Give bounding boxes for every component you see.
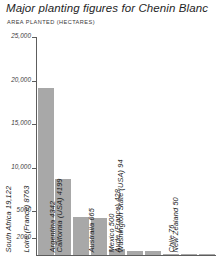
chart-title: Major planting figures for Chenin Blanc [6, 2, 208, 14]
bar[interactable] [145, 251, 161, 255]
y-axis-tick-mark [32, 37, 36, 38]
bar-slot: Chile 76 [180, 37, 198, 255]
chart-container: Major planting figures for Chenin Blanc … [0, 0, 222, 272]
bar-slot: Mexico 500 [127, 37, 145, 255]
x-axis-line [36, 255, 216, 256]
bar[interactable] [163, 254, 179, 255]
y-axis-tick-mark [32, 238, 36, 239]
bar-label: New Zealand 50 [172, 197, 179, 252]
chart-subtitle: AREA PLANTED (HECTARES) [7, 19, 95, 25]
bar-label: Washington State (USA) 94 [117, 159, 124, 252]
y-axis-tick-mark [32, 168, 36, 169]
y-axis-tick: 20,000 [0, 81, 36, 82]
bar-slot: New Zealand 50 [198, 37, 216, 255]
bar-slot: Aude (France) 428 [144, 37, 162, 255]
y-axis-tick-label: 25,000 [11, 32, 31, 39]
y-axis-tick-mark [32, 211, 36, 212]
y-axis-tick-label: 15,000 [11, 119, 31, 126]
bar-label: California (USA) 4199 [55, 178, 62, 252]
y-axis-tick: 10,000 [0, 168, 36, 169]
plot-area: 25,00020,00015,00010,00050002000 South A… [36, 37, 216, 256]
y-axis-tick-label: 10,000 [11, 163, 31, 170]
y-axis-tick-mark [32, 81, 36, 82]
bar-label: Loire (France) 8763 [23, 185, 30, 252]
y-axis-tick-mark [32, 124, 36, 125]
bar[interactable] [199, 254, 215, 255]
bar-label: South Africa 19,122 [5, 185, 12, 252]
y-axis-tick: 15,000 [0, 124, 36, 125]
bar[interactable] [181, 254, 197, 255]
y-axis-tick: 25,000 [0, 37, 36, 38]
bar-series: South Africa 19,122Loire (France) 8763Ar… [37, 37, 216, 255]
y-axis-tick-label: 20,000 [11, 76, 31, 83]
bar[interactable] [127, 251, 143, 255]
bar-label: Australia 665 [88, 208, 95, 252]
